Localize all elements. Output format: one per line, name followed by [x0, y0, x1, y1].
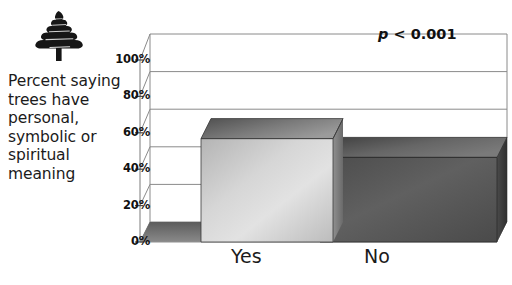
p-value-text: < 0.001	[388, 26, 456, 42]
category-label-no: No	[364, 245, 390, 267]
bar-chart-3d: 100% 80% 60% 40% 20% 0% Yes No p < 0.001	[132, 0, 512, 285]
p-value-annotation: p < 0.001	[378, 26, 457, 42]
category-labels: Yes No	[132, 0, 512, 285]
evergreen-tree-icon	[28, 6, 90, 68]
p-value-symbol: p	[378, 26, 388, 42]
category-label-yes: Yes	[231, 245, 262, 267]
